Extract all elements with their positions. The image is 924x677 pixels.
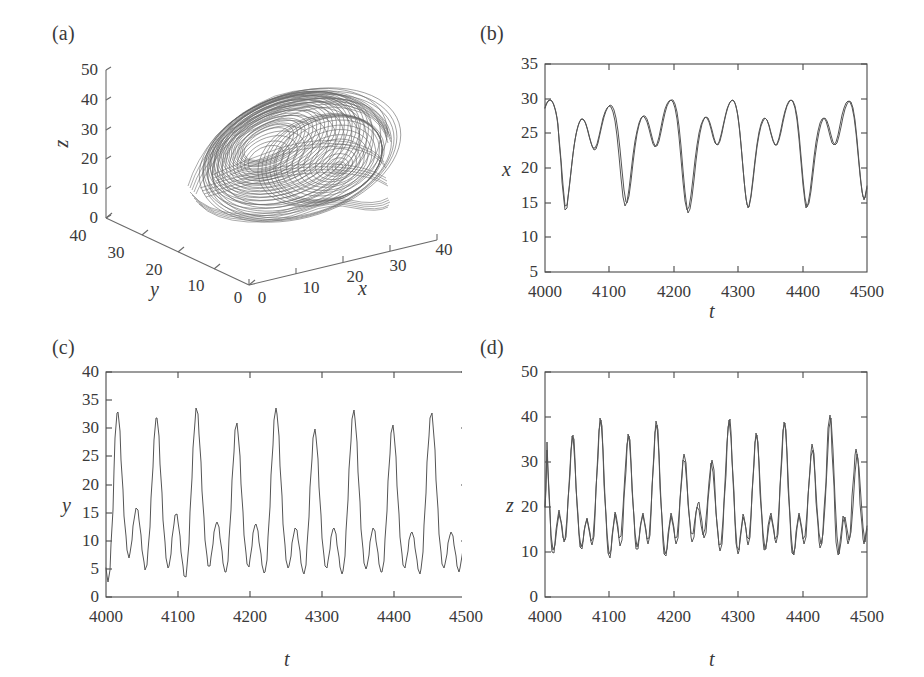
panel-b-ytick-1: 10 — [521, 227, 538, 247]
panel-b-xtick-5: 4500 — [850, 282, 884, 302]
panel-c-ytick-4: 20 — [82, 475, 99, 495]
panel-d-ytick-2: 20 — [521, 497, 538, 517]
panel-b-series-x-detail — [545, 100, 867, 210]
attractor-trajectory — [182, 64, 418, 246]
panel-d-xtick-0: 4000 — [528, 607, 562, 627]
panel-a-ytick-0: 0 — [234, 288, 243, 308]
panel-b-xtick-1: 4100 — [592, 282, 626, 302]
panel-d-y-axis-label: z — [506, 494, 514, 517]
panel-a-label: (a) — [52, 22, 75, 45]
panel-a-ytick-1: 10 — [188, 276, 205, 296]
panel-b-ytick-0: 5 — [530, 262, 539, 282]
panel-c-label: (c) — [52, 336, 75, 359]
panel-d-ytick-1: 10 — [521, 542, 538, 562]
panel-b-ytick-5: 30 — [521, 89, 538, 109]
panel-d-ytick-0: 0 — [530, 587, 539, 607]
panel-c-ytick-1: 5 — [91, 559, 100, 579]
panel-a-y-axis-label: y — [150, 278, 159, 301]
panel-d-ytick-4: 40 — [521, 407, 538, 427]
panel-a-ytick-2: 20 — [146, 260, 163, 280]
panel-a-ztick-1: 10 — [81, 179, 98, 199]
panel-c-xtick-0: 4000 — [89, 607, 123, 627]
panel-c-xtick-4: 4400 — [377, 607, 411, 627]
panel-b-xtick-0: 4000 — [528, 282, 562, 302]
panel-c-ytick-5: 25 — [82, 446, 99, 466]
panel-b-label: (b) — [480, 22, 504, 45]
panel-b: (b) x t 35 30 25 20 15 10 5 4000 4100 42… — [462, 0, 924, 330]
panel-a-ztick-2: 20 — [81, 149, 98, 169]
panel-a-ztick-0: 0 — [90, 208, 99, 228]
panel-b-ytick-4: 25 — [521, 123, 538, 143]
panel-c-ytick-6: 30 — [82, 418, 99, 438]
panel-c-ytick-0: 0 — [91, 587, 100, 607]
panel-c-ytick-2: 10 — [82, 531, 99, 551]
panel-a-plot — [0, 0, 462, 330]
panel-c-series-y — [106, 408, 462, 582]
panel-b-ytick-6: 35 — [521, 54, 538, 74]
panel-c: (c) y t 40 35 30 25 20 15 10 5 0 4000 41… — [0, 330, 462, 677]
panel-c-x-axis-label: t — [284, 648, 290, 671]
panel-d-xtick-2: 4200 — [657, 607, 691, 627]
panel-d-xtick-1: 4100 — [592, 607, 626, 627]
panel-d-label: (d) — [480, 336, 504, 359]
panel-a-ytick-3: 30 — [108, 243, 125, 263]
panel-a-ztick-3: 30 — [81, 120, 98, 140]
panel-d-xtick-4: 4400 — [786, 607, 820, 627]
panel-a: (a) 50 40 30 20 10 0 z 40 30 20 10 0 y 0… — [0, 0, 462, 330]
panel-d-x-axis-label: t — [709, 648, 715, 671]
panel-b-xtick-2: 4200 — [657, 282, 691, 302]
panel-c-xtick-2: 4200 — [233, 607, 267, 627]
panel-a-ztick-4: 40 — [81, 90, 98, 110]
panel-a-z-axis-label: z — [50, 140, 73, 148]
panel-a-ztick-5: 50 — [81, 60, 98, 80]
panel-a-xtick-1: 10 — [303, 278, 320, 298]
panel-c-xtick-3: 4300 — [305, 607, 339, 627]
panel-c-ytick-7: 35 — [82, 390, 99, 410]
panel-a-xtick-0: 0 — [258, 288, 267, 308]
panel-b-x-axis-label: t — [709, 300, 715, 323]
panel-c-ytick-3: 15 — [82, 503, 99, 523]
panel-d-ytick-3: 30 — [521, 452, 538, 472]
panel-b-xtick-3: 4300 — [721, 282, 755, 302]
panel-a-x-axis-label: x — [358, 277, 367, 300]
panel-b-ytick-2: 15 — [521, 193, 538, 213]
panel-d-ytick-5: 50 — [521, 362, 538, 382]
panel-d: (d) z t 50 40 30 20 10 0 4000 4100 4200 … — [462, 330, 924, 677]
panel-b-xtick-4: 4400 — [786, 282, 820, 302]
panel-b-ytick-3: 20 — [521, 158, 538, 178]
panel-d-xtick-3: 4300 — [721, 607, 755, 627]
panel-c-y-axis-label: y — [62, 494, 71, 517]
panel-c-xtick-1: 4100 — [161, 607, 195, 627]
panel-a-xtick-3: 30 — [390, 256, 407, 276]
panel-c-ytick-8: 40 — [82, 362, 99, 382]
panel-a-ytick-4: 40 — [70, 226, 87, 246]
panel-b-y-axis-label: x — [502, 158, 511, 181]
panel-a-xtick-4: 40 — [436, 240, 453, 260]
panel-d-xtick-5: 4500 — [850, 607, 884, 627]
figure-canvas: (a) 50 40 30 20 10 0 z 40 30 20 10 0 y 0… — [0, 0, 924, 677]
